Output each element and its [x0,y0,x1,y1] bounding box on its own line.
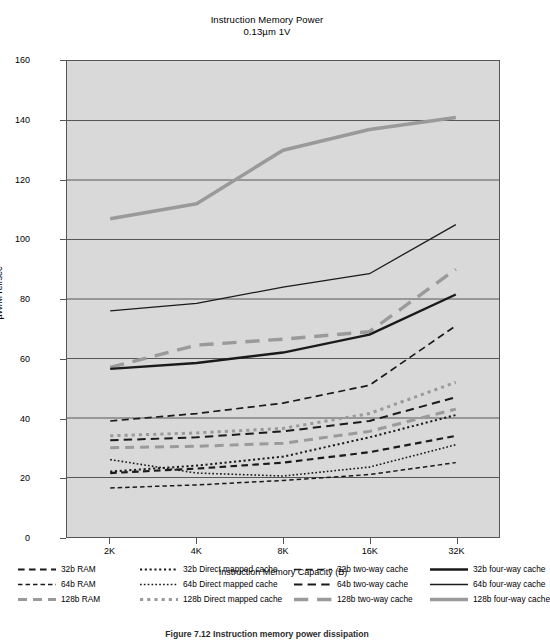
y-axis-tick-mark [60,538,66,539]
legend-item: 32b four-way cache [430,564,548,574]
y-axis-tick-mark [60,60,66,61]
y-axis-tick-mark [60,299,66,300]
legend-item: 64b Direct mapped cache [140,579,290,589]
legend-item: 128b Direct mapped cache [140,594,290,604]
x-axis-tick-label: 8K [253,547,313,556]
x-axis-tick-mark [370,538,371,544]
y-axis-tick-label: 0 [0,534,30,543]
chart-legend: 32b RAM32b Direct mapped cache32b two-wa… [18,564,518,604]
x-axis-tick-label: 2K [79,547,139,556]
y-axis-tick-label: 100 [0,235,30,244]
legend-label: 64b four-way cache [473,579,545,589]
legend-label: 128b Direct mapped cache [183,594,282,604]
y-axis-tick-mark [60,180,66,181]
y-axis-tick-label: 40 [0,414,30,423]
legend-swatch [430,580,468,589]
y-axis-tick-mark [60,239,66,240]
y-axis-tick-label: 120 [0,175,30,184]
y-axis-label: µW/M ref/sec [0,133,4,293]
y-axis-tick-mark [60,478,66,479]
x-axis-tick-label: 16K [340,547,400,556]
y-axis-tick-label: 80 [0,295,30,304]
chart-subtitle: 0.13µm 1V [0,26,534,38]
legend-label: 64b two-way cache [337,579,408,589]
legend-item: 128b RAM [18,594,136,604]
x-axis-tick-label: 32K [427,547,487,556]
x-axis-tick-mark [109,538,110,544]
legend-swatch [18,580,56,589]
legend-swatch [294,565,332,574]
x-axis-tick-mark [457,538,458,544]
legend-swatch [18,565,56,574]
x-axis-tick-mark [196,538,197,544]
y-axis-tick-label: 20 [0,474,30,483]
x-axis-tick-label: 4K [166,547,226,556]
legend-swatch [294,595,332,604]
legend-label: 64b RAM [61,579,96,589]
y-axis-tick-label: 160 [0,56,30,65]
legend-item: 128b four-way cache [430,594,548,604]
legend-label: 128b two-way cache [337,594,413,604]
chart-title-block: Instruction Memory Power 0.13µm 1V [0,14,534,38]
data-series-layer [67,61,499,537]
legend-label: 32b four-way cache [473,564,545,574]
x-axis-tick-mark [283,538,284,544]
legend-label: 32b Direct mapped cache [183,564,278,574]
legend-swatch [140,565,178,574]
chart-container: µW/M ref/sec Instruction Memory Capacity… [0,55,534,525]
legend-item: 64b RAM [18,579,136,589]
legend-label: 128b four-way cache [473,594,550,604]
plot-area [66,60,500,538]
legend-item: 64b four-way cache [430,579,548,589]
legend-label: 64b Direct mapped cache [183,579,278,589]
legend-label: 32b two-way cache [337,564,408,574]
legend-swatch [140,595,178,604]
legend-label: 32b RAM [61,564,96,574]
figure-caption: Figure 7.12 Instruction memory power dis… [0,629,534,641]
legend-swatch [294,580,332,589]
page-title: Instruction Memory Power [0,14,534,26]
legend-swatch [430,595,468,604]
legend-item: 32b Direct mapped cache [140,564,290,574]
y-axis-tick-label: 60 [0,354,30,363]
legend-swatch [18,595,56,604]
y-axis-tick-label: 140 [0,115,30,124]
legend-item: 32b RAM [18,564,136,574]
y-axis-tick-mark [60,120,66,121]
legend-item: 128b two-way cache [294,594,426,604]
y-axis-tick-mark [60,419,66,420]
legend-label: 128b RAM [61,594,100,604]
legend-swatch [430,565,468,574]
legend-item: 32b two-way cache [294,564,426,574]
legend-item: 64b two-way cache [294,579,426,589]
legend-swatch [140,580,178,589]
y-axis-tick-mark [60,359,66,360]
